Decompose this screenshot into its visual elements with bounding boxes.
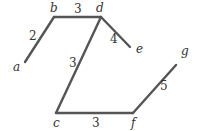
- node-label-d: d: [96, 2, 104, 14]
- node-label-e: e: [136, 43, 143, 55]
- edge-d-c: [56, 17, 101, 113]
- graph-edges: [0, 0, 202, 131]
- node-label-a: a: [13, 61, 20, 73]
- edge-f-g: [133, 65, 176, 113]
- edge-weight-b-d: 3: [74, 3, 82, 15]
- weighted-graph-diagram: a b d e c f g 2 3 4 3 3 5: [0, 0, 202, 131]
- edge-weight-f-g: 5: [160, 80, 168, 92]
- node-label-c: c: [53, 117, 60, 129]
- edge-weight-a-b: 2: [29, 30, 37, 42]
- edge-weight-d-c: 3: [69, 57, 77, 69]
- node-label-f: f: [131, 117, 135, 129]
- node-label-b: b: [50, 2, 58, 14]
- edge-weight-c-f: 3: [92, 117, 100, 129]
- edge-weight-d-e: 4: [110, 33, 118, 45]
- node-label-g: g: [181, 45, 189, 57]
